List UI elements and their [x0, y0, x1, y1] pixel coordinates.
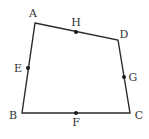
quadrilateral-abcd [22, 23, 130, 113]
label-g: G [129, 71, 138, 84]
point-h [74, 30, 78, 34]
quadrilateral-diagram: A H D E G B F C [0, 0, 149, 139]
point-g [122, 75, 126, 79]
label-d: D [120, 28, 129, 41]
label-a: A [28, 7, 38, 20]
label-e: E [14, 62, 22, 75]
label-b: B [9, 109, 17, 122]
label-c: C [135, 109, 143, 122]
point-e [26, 66, 30, 70]
label-h: H [71, 16, 81, 29]
point-f [74, 111, 78, 115]
label-f: F [72, 116, 80, 129]
